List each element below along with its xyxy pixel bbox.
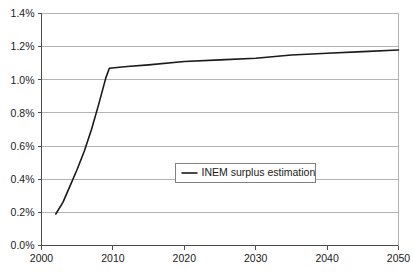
chart-container: 0.0%0.2%0.4%0.6%0.8%1.0%1.2%1.4% 2000201…: [0, 0, 414, 275]
y-tick-label-2: 0.4%: [11, 173, 35, 185]
x-tick-label-0: 2000: [30, 252, 54, 264]
line-chart: 0.0%0.2%0.4%0.6%0.8%1.0%1.2%1.4% 2000201…: [0, 0, 414, 275]
x-tick-label-3: 2030: [244, 252, 268, 264]
x-tick-label-4: 2040: [315, 252, 339, 264]
y-tick-label-3: 0.6%: [11, 140, 35, 152]
x-tick-label-1: 2010: [101, 252, 125, 264]
x-tick-label-5: 2050: [387, 252, 411, 264]
x-tick-label-2: 2020: [173, 252, 197, 264]
y-tick-label-4: 0.8%: [11, 107, 35, 119]
legend-entry-label: INEM surplus estimation: [202, 166, 316, 178]
y-tick-label-0: 0.0%: [11, 239, 35, 251]
y-tick-label-6: 1.2%: [11, 40, 35, 52]
y-tick-label-5: 1.0%: [11, 74, 35, 86]
chart-legend: INEM surplus estimation: [176, 164, 316, 183]
y-tick-label-1: 0.2%: [11, 206, 35, 218]
chart-background: [0, 0, 414, 275]
y-tick-label-7: 1.4%: [11, 7, 35, 19]
